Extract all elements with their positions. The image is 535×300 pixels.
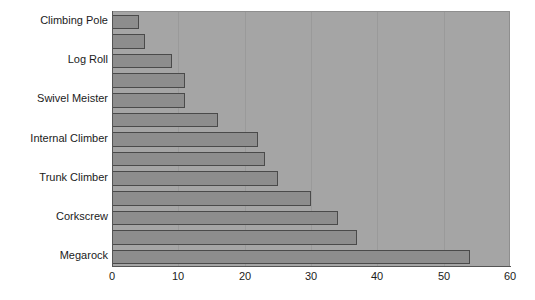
x-axis-line	[112, 266, 511, 267]
bar	[112, 54, 172, 69]
bar-row	[112, 152, 509, 167]
bar-row	[112, 73, 509, 88]
y-tick-label: Corkscrew	[0, 211, 108, 222]
bar-row	[112, 211, 509, 226]
bar	[112, 211, 338, 226]
bar	[112, 132, 258, 147]
bar-row	[112, 132, 509, 147]
x-tick-label: 60	[504, 270, 516, 283]
y-tick-label: Trunk Climber	[0, 172, 108, 183]
y-tick-label: Internal Climber	[0, 133, 108, 144]
bar	[112, 34, 145, 49]
bar-row	[112, 191, 509, 206]
bar-row	[112, 230, 509, 245]
x-axis-labels: 0102030405060	[112, 270, 510, 288]
x-tick-label: 30	[305, 270, 317, 283]
bar-row	[112, 34, 509, 49]
y-tick-label: Log Roll	[0, 54, 108, 65]
bar	[112, 230, 357, 245]
bar	[112, 73, 185, 88]
y-tick-label: Megarock	[0, 250, 108, 261]
bar-row	[112, 250, 509, 265]
x-tick-label: 20	[239, 270, 251, 283]
x-tick-label: 0	[109, 270, 115, 283]
plot-area	[112, 11, 510, 266]
bar-chart: Climbing PoleLog RollSwivel MeisterInter…	[0, 0, 535, 300]
bar	[112, 113, 218, 128]
bar	[112, 191, 311, 206]
bar-row	[112, 93, 509, 108]
x-tick-label: 40	[371, 270, 383, 283]
bar-row	[112, 54, 509, 69]
bar-row	[112, 113, 509, 128]
bar	[112, 171, 278, 186]
x-tick-label: 10	[172, 270, 184, 283]
bar	[112, 15, 139, 30]
x-tick-label: 50	[438, 270, 450, 283]
bar	[112, 152, 265, 167]
y-axis-labels: Climbing PoleLog RollSwivel MeisterInter…	[0, 11, 108, 266]
y-tick-label: Swivel Meister	[0, 93, 108, 104]
bar-row	[112, 15, 509, 30]
bar	[112, 250, 470, 265]
y-tick-label: Climbing Pole	[0, 15, 108, 26]
bar	[112, 93, 185, 108]
bar-row	[112, 171, 509, 186]
y-axis-line	[112, 11, 113, 267]
